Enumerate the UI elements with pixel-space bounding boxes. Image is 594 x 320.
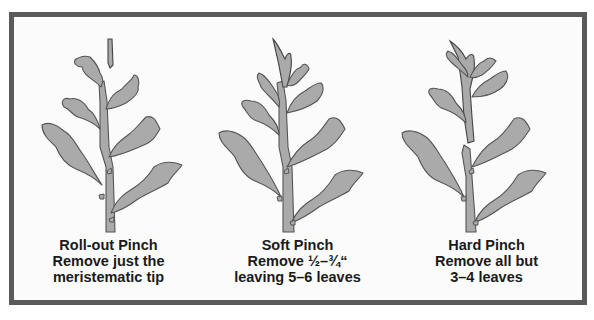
panel-roll-out-pinch: Roll-out Pinch Remove just the meristema… xyxy=(14,17,203,300)
plant-soft-pinch-illustration xyxy=(203,17,392,237)
panel-caption: Soft Pinch Remove ½–¾“ leaving 5–6 leave… xyxy=(203,237,392,285)
panel-title: Roll-out Pinch xyxy=(14,237,203,253)
diagram-frame: Roll-out Pinch Remove just the meristema… xyxy=(9,12,587,305)
panel-caption: Roll-out Pinch Remove just the meristema… xyxy=(14,237,203,285)
panel-instruction-detail: 3–4 leaves xyxy=(392,269,581,285)
detached-tip-icon xyxy=(108,39,113,68)
plant-roll-out-illustration xyxy=(14,17,203,237)
panel-instruction: Remove just the xyxy=(14,253,203,269)
plant-hard-pinch-illustration xyxy=(392,17,582,237)
panel-caption: Hard Pinch Remove all but 3–4 leaves xyxy=(392,237,581,285)
panel-title: Soft Pinch xyxy=(203,237,392,253)
panel-instruction: Remove ½–¾“ xyxy=(203,253,392,269)
panel-instruction-detail: meristematic tip xyxy=(14,269,203,285)
panel-soft-pinch: Soft Pinch Remove ½–¾“ leaving 5–6 leave… xyxy=(203,17,392,300)
panel-hard-pinch: Hard Pinch Remove all but 3–4 leaves xyxy=(392,17,581,300)
panel-instruction: Remove all but xyxy=(392,253,581,269)
panel-instruction-detail: leaving 5–6 leaves xyxy=(203,269,392,285)
panel-title: Hard Pinch xyxy=(392,237,581,253)
